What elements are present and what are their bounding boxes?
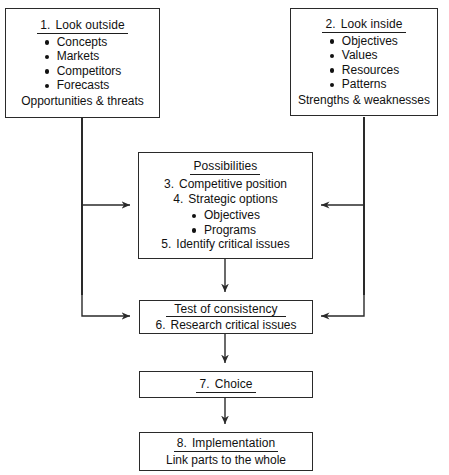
possibilities-item-4-number: 4. [173,192,183,207]
list-item: Objectives [329,34,399,49]
box-implementation-title: Implementation [192,436,275,450]
diagram-canvas: 1.Look outside Concepts Markets Competit… [0,0,449,475]
test-of-consistency-item-6: 6.Research critical issues [155,317,296,333]
list-item: Competitors [44,64,122,79]
possibilities-item-4: 4.Strategic options [173,192,277,207]
box-test-of-consistency: Test of consistency 6.Research critical … [139,300,313,334]
box-look-inside-title: Look inside [341,17,403,31]
box-look-inside-bullets: Objectives Values Resources Patterns [329,34,399,92]
box-look-outside: 1.Look outside Concepts Markets Competit… [5,8,160,118]
list-item: Markets [44,49,122,64]
list-item: Programs [191,223,260,238]
list-item: Objectives [191,208,260,223]
box-possibilities-content: Possibilities 3.Competitive position 4.S… [161,159,289,252]
list-item: Patterns [329,77,399,92]
box-implementation: 8.Implementation Link parts to the whole [139,432,313,471]
box-choice-number: 7. [199,377,209,391]
possibilities-item-4-label: Strategic options [188,192,277,206]
test-of-consistency-item-6-label: Research critical issues [170,318,296,332]
box-implementation-number: 8. [177,436,187,450]
box-test-of-consistency-content: Test of consistency 6.Research critical … [155,302,296,333]
box-possibilities: Possibilities 3.Competitive position 4.S… [138,152,313,259]
box-look-outside-content: 1.Look outside Concepts Markets Competit… [21,18,144,109]
list-item: Resources [329,63,399,78]
list-item: Forecasts [44,78,122,93]
box-choice-header: 7.Choice [196,377,255,393]
box-look-inside-header: 2.Look inside [322,17,405,33]
box-implementation-header: 8.Implementation [174,436,279,452]
box-possibilities-bullets: Objectives Programs [191,208,260,237]
box-possibilities-header: Possibilities [190,159,260,175]
possibilities-item-3: 3.Competitive position [164,177,287,192]
box-choice-content: 7.Choice [196,377,255,393]
list-item: Values [329,48,399,63]
box-look-outside-title: Look outside [55,18,124,32]
box-implementation-footer: Link parts to the whole [166,453,286,468]
box-choice: 7.Choice [139,371,313,398]
box-look-outside-bullets: Concepts Markets Competitors Forecasts [44,35,122,93]
possibilities-item-5-number: 5. [161,237,171,252]
box-look-outside-number: 1. [40,18,50,32]
box-look-inside-number: 2. [325,17,335,31]
possibilities-item-5-label: Identify critical issues [176,237,289,251]
possibilities-item-3-number: 3. [164,177,174,192]
possibilities-item-3-label: Competitive position [179,177,287,191]
box-look-outside-header: 1.Look outside [37,18,127,34]
box-test-of-consistency-header: Test of consistency [166,302,285,317]
possibilities-item-5: 5.Identify critical issues [161,237,289,252]
box-look-outside-footer: Opportunities & threats [21,94,144,109]
box-look-inside: 2.Look inside Objectives Values Resource… [290,8,438,116]
test-of-consistency-item-6-number: 6. [155,317,165,333]
box-choice-title: Choice [215,377,253,391]
list-item: Concepts [44,35,122,50]
box-implementation-content: 8.Implementation Link parts to the whole [166,436,286,468]
box-look-inside-content: 2.Look inside Objectives Values Resource… [298,17,430,108]
box-look-inside-footer: Strengths & weaknesses [298,93,430,108]
